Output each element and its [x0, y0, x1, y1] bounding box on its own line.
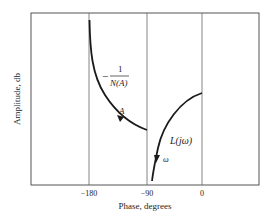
x-tick-label: 0 [200, 189, 204, 198]
x-tick-label: −180 [81, 189, 98, 198]
x-tick-label: −90 [141, 189, 154, 198]
param-label-omega: ω [163, 155, 169, 164]
gain-phase-diagram: − 1 N(A) A L(jω) ω −180 −90 0 Phase, deg… [0, 0, 272, 218]
plot-frame [31, 13, 259, 185]
curve-label-prefix: − [102, 70, 108, 82]
x-axis-label: Phase, degrees [119, 201, 172, 211]
y-axis-label: Amplitude, db [12, 73, 22, 125]
param-label-a: A [118, 106, 125, 116]
curve-label-denominator: N(A) [109, 78, 128, 88]
curve-label-numerator: 1 [118, 64, 123, 74]
curve-label-ljw: L(jω) [169, 135, 193, 147]
